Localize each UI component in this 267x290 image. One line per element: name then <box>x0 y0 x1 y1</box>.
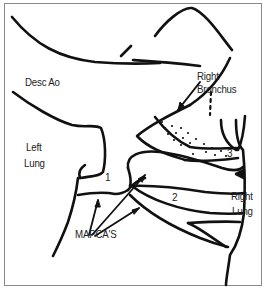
aortic-arch-outline <box>155 8 232 50</box>
lower-pa-branch <box>188 222 240 223</box>
label-left-lung-2: Lung <box>24 157 45 170</box>
bronchus-stipple <box>161 121 227 157</box>
label-number-1: 1 <box>105 172 111 183</box>
mapca-arrowhead-3 <box>132 208 139 214</box>
notch-3 <box>236 170 244 178</box>
right-bronchus-branch-left <box>221 120 236 150</box>
upper-pa-left <box>128 168 131 186</box>
label-mapcas: MAPCA'S <box>75 228 116 241</box>
mapca-arrow-2 <box>92 175 145 235</box>
label-number-3: 3 <box>227 148 233 159</box>
mapca-arrowhead-1 <box>95 200 100 207</box>
left-pulmonary-inner <box>78 190 128 195</box>
aorta-upper-outline <box>12 17 160 64</box>
right-bronchus-branch-right <box>238 116 245 150</box>
upper-pa-bottom <box>130 186 244 194</box>
label-left-lung-1: Left <box>26 141 41 154</box>
label-right-lung-2: Lung <box>232 205 253 218</box>
label-number-2: 2 <box>172 192 178 203</box>
label-right-lung-1: Right <box>231 190 253 203</box>
aorta-arch-stub <box>121 46 131 56</box>
label-desc-ao: Desc Ao <box>25 76 60 89</box>
bronchus-band-top <box>155 117 238 149</box>
label-right-bronchus: Right Bronchus <box>197 70 259 96</box>
left-pulmonary-outline <box>53 178 78 256</box>
